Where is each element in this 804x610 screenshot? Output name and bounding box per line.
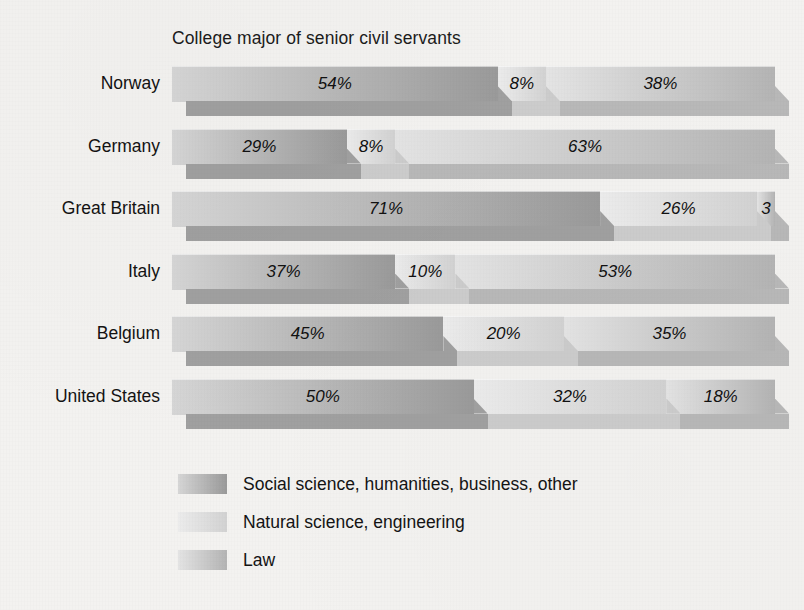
bar-row: 45%20%35% <box>172 316 775 366</box>
bar-segment: 53% <box>455 254 775 304</box>
bar-value-label: 38% <box>546 66 775 101</box>
bar-segment-front-face <box>560 101 789 116</box>
bar-segment-front-face <box>186 414 488 429</box>
bar-value-label: 26% <box>600 191 757 226</box>
legend-label: Law <box>243 548 275 572</box>
chart-container: College major of senior civil servants N… <box>0 0 804 610</box>
bar-row: 50%32%18% <box>172 379 775 429</box>
bar-segment: 18% <box>666 379 775 429</box>
bar-segment-front-face <box>186 226 614 241</box>
bar-value-label: 71% <box>172 191 600 226</box>
bar-segment-front-face <box>512 101 560 116</box>
bar-segment: 54% <box>172 66 498 116</box>
bar-value-label: 54% <box>172 66 498 101</box>
chart-title: College major of senior civil servants <box>172 28 461 49</box>
bar-value-label: 53% <box>455 254 775 289</box>
legend-swatch <box>178 512 227 532</box>
bar-segment-front-face <box>409 289 469 304</box>
bar-segment-bevel <box>775 336 789 351</box>
bar-segment-front-face <box>409 164 789 179</box>
category-label: Belgium <box>97 323 160 344</box>
bar-segment: 38% <box>546 66 775 116</box>
bar-segment-front-face <box>488 414 681 429</box>
bar-segment-bevel <box>775 211 789 226</box>
bar-value-label: 50% <box>172 379 474 414</box>
bar-value-label: 63% <box>395 129 775 164</box>
bar-value-label: 18% <box>666 379 775 414</box>
legend-swatch <box>178 550 227 570</box>
bar-row: 71%26%3 <box>172 191 775 241</box>
bar-value-label: 20% <box>443 316 564 351</box>
bar-segment: 37% <box>172 254 395 304</box>
bar-value-label: 45% <box>172 316 443 351</box>
category-label: United States <box>55 386 160 407</box>
category-label: Norway <box>101 73 160 94</box>
bar-segment-front-face <box>578 351 789 366</box>
bar-segment-bevel <box>775 399 789 414</box>
bar-row: 29%8%63% <box>172 129 775 179</box>
bar-segment-front-face <box>680 414 789 429</box>
bar-segment: 71% <box>172 191 600 241</box>
bar-segment-front-face <box>771 226 789 241</box>
bar-value-label: 37% <box>172 254 395 289</box>
bar-segment-bevel <box>775 149 789 164</box>
bar-segment: 50% <box>172 379 474 429</box>
category-label: Italy <box>128 261 160 282</box>
bar-segment-front-face <box>457 351 578 366</box>
legend-label: Natural science, engineering <box>243 510 465 534</box>
bar-segment-front-face <box>186 164 361 179</box>
bar-segment: 35% <box>564 316 775 366</box>
bar-segment-bevel <box>775 86 789 101</box>
bar-row: 37%10%53% <box>172 254 775 304</box>
bar-segment-front-face <box>186 351 457 366</box>
bar-segment-front-face <box>186 289 409 304</box>
bar-segment: 45% <box>172 316 443 366</box>
bar-segment: 63% <box>395 129 775 179</box>
category-label: Great Britain <box>62 198 160 219</box>
bar-value-label: 35% <box>564 316 775 351</box>
bar-segment: 32% <box>474 379 667 429</box>
bar-segment-bevel <box>775 274 789 289</box>
bar-segment: 20% <box>443 316 564 366</box>
bar-segment: 29% <box>172 129 347 179</box>
bar-segment-front-face <box>186 101 512 116</box>
bar-value-label: 32% <box>474 379 667 414</box>
legend-swatch <box>178 474 227 494</box>
bar-segment-front-face <box>614 226 771 241</box>
bar-segment: 26% <box>600 191 757 241</box>
category-label: Germany <box>88 136 160 157</box>
bar-value-label: 29% <box>172 129 347 164</box>
bar-row: 54%8%38% <box>172 66 775 116</box>
bar-segment-front-face <box>469 289 789 304</box>
bar-segment-front-face <box>361 164 409 179</box>
legend-label: Social science, humanities, business, ot… <box>243 472 578 496</box>
